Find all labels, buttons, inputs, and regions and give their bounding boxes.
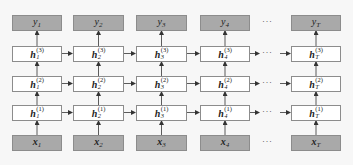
hidden-box-h2-3: h(2)3 bbox=[136, 76, 187, 92]
layer-superscript: (3) bbox=[98, 46, 106, 53]
time-subscript: 3 bbox=[161, 112, 169, 119]
input-subscript: 2 bbox=[99, 141, 103, 149]
output-subscript: 1 bbox=[37, 21, 41, 29]
output-subscript: T bbox=[316, 21, 320, 29]
layer-superscript: (2) bbox=[98, 76, 106, 83]
time-subscript: 2 bbox=[98, 112, 106, 119]
input-box-xT: xT bbox=[291, 135, 341, 151]
input-box-x1: x1 bbox=[12, 135, 62, 151]
layer-superscript: (1) bbox=[161, 105, 169, 112]
hidden-box-h2-1: h(2)1 bbox=[12, 76, 62, 92]
layer-superscript: (3) bbox=[315, 46, 323, 53]
hidden-label: h bbox=[309, 108, 315, 119]
hidden-label: h bbox=[218, 49, 224, 60]
input-subscript: 3 bbox=[162, 141, 166, 149]
output-box-y4: y4 bbox=[200, 15, 250, 31]
layer-superscript: (2) bbox=[36, 76, 44, 83]
time-subscript: T bbox=[315, 53, 323, 60]
hidden-box-h1-4: h(1)4 bbox=[200, 105, 250, 121]
input-subscript: 1 bbox=[38, 141, 42, 149]
hidden-label: h bbox=[92, 108, 98, 119]
hidden-box-h2-4: h(2)4 bbox=[200, 76, 250, 92]
input-box-x3: x3 bbox=[136, 135, 187, 151]
layer-superscript: (3) bbox=[161, 46, 169, 53]
hidden-label: h bbox=[30, 49, 36, 60]
hidden-box-h3-3: h(3)3 bbox=[136, 46, 187, 62]
input-subscript: 4 bbox=[226, 141, 230, 149]
ellipsis-h3: ··· bbox=[262, 47, 273, 57]
time-subscript: T bbox=[315, 112, 323, 119]
input-box-x4: x4 bbox=[200, 135, 250, 151]
hidden-box-h3-2: h(3)2 bbox=[73, 46, 124, 62]
hidden-label: h bbox=[92, 79, 98, 90]
hidden-box-h3-T: h(3)T bbox=[291, 46, 341, 62]
time-subscript: 2 bbox=[98, 53, 106, 60]
hidden-label: h bbox=[155, 108, 161, 119]
layer-superscript: (2) bbox=[161, 76, 169, 83]
layer-superscript: (2) bbox=[315, 76, 323, 83]
layer-superscript: (2) bbox=[224, 76, 232, 83]
output-subscript: 3 bbox=[162, 21, 166, 29]
layer-superscript: (1) bbox=[36, 105, 44, 112]
output-box-y3: y3 bbox=[136, 15, 187, 31]
hidden-label: h bbox=[155, 49, 161, 60]
layer-superscript: (1) bbox=[224, 105, 232, 112]
hidden-box-h3-1: h(3)1 bbox=[12, 46, 62, 62]
time-subscript: 1 bbox=[36, 53, 44, 60]
time-subscript: 4 bbox=[224, 83, 232, 90]
output-subscript: 4 bbox=[225, 21, 229, 29]
time-subscript: 3 bbox=[161, 53, 169, 60]
hidden-box-h1-2: h(1)2 bbox=[73, 105, 124, 121]
output-box-y1: y1 bbox=[12, 15, 62, 31]
hidden-label: h bbox=[309, 49, 315, 60]
ellipsis-h1: ··· bbox=[262, 106, 273, 116]
hidden-label: h bbox=[218, 108, 224, 119]
hidden-box-h1-T: h(1)T bbox=[291, 105, 341, 121]
time-subscript: 4 bbox=[224, 112, 232, 119]
time-subscript: 2 bbox=[98, 83, 106, 90]
hidden-label: h bbox=[155, 79, 161, 90]
output-box-y2: y2 bbox=[73, 15, 124, 31]
layer-superscript: (1) bbox=[315, 105, 323, 112]
ellipsis-input: ··· bbox=[262, 136, 273, 146]
time-subscript: 1 bbox=[36, 83, 44, 90]
output-box-yT: yT bbox=[291, 15, 341, 31]
input-subscript: T bbox=[317, 141, 321, 149]
hidden-label: h bbox=[30, 108, 36, 119]
ellipsis-h2: ··· bbox=[262, 77, 273, 87]
layer-superscript: (3) bbox=[224, 46, 232, 53]
hidden-label: h bbox=[30, 79, 36, 90]
time-subscript: 3 bbox=[161, 83, 169, 90]
ellipsis-output: ··· bbox=[262, 16, 273, 26]
hidden-label: h bbox=[92, 49, 98, 60]
hidden-box-h2-2: h(2)2 bbox=[73, 76, 124, 92]
hidden-box-h1-3: h(1)3 bbox=[136, 105, 187, 121]
layer-superscript: (3) bbox=[36, 46, 44, 53]
layer-superscript: (1) bbox=[98, 105, 106, 112]
hidden-label: h bbox=[309, 79, 315, 90]
input-box-x2: x2 bbox=[73, 135, 124, 151]
hidden-box-h2-T: h(2)T bbox=[291, 76, 341, 92]
hidden-box-h3-4: h(3)4 bbox=[200, 46, 250, 62]
hidden-label: h bbox=[218, 79, 224, 90]
output-subscript: 2 bbox=[99, 21, 103, 29]
time-subscript: T bbox=[315, 83, 323, 90]
time-subscript: 4 bbox=[224, 53, 232, 60]
time-subscript: 1 bbox=[36, 112, 44, 119]
hidden-box-h1-1: h(1)1 bbox=[12, 105, 62, 121]
